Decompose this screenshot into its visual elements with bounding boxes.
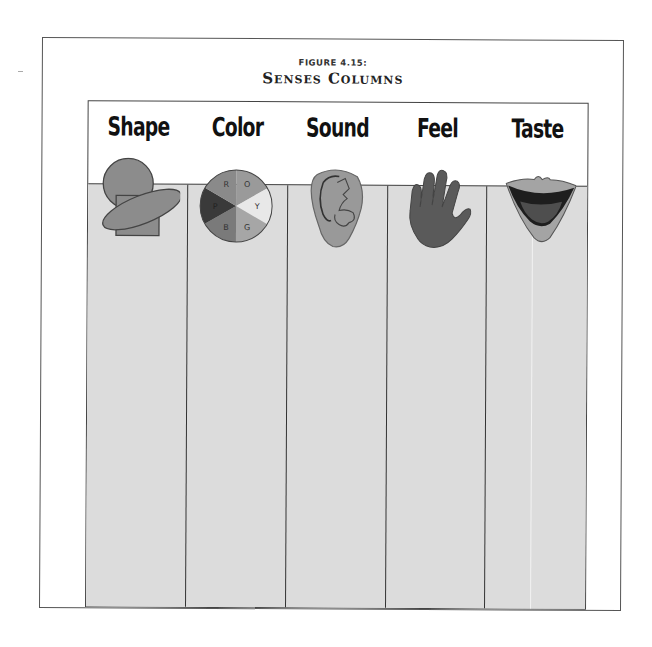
svg-text:G: G xyxy=(244,223,250,232)
column-header-sound: Sound xyxy=(301,112,373,142)
svg-text:Y: Y xyxy=(254,202,260,211)
column-taste xyxy=(484,186,587,609)
svg-text:P: P xyxy=(213,202,218,211)
svg-text:O: O xyxy=(244,180,250,189)
figure-frame: FIGURE 4.15: Senses Columns Shape Color … xyxy=(39,37,624,611)
senses-table: Shape Color Sound Feel Taste R O Y G B P xyxy=(85,100,589,610)
column-header-shape: Shape xyxy=(102,111,174,141)
svg-text:B: B xyxy=(223,223,229,232)
figure-number: FIGURE 4.15: xyxy=(43,56,623,69)
column-header-taste: Taste xyxy=(501,113,573,143)
color-wheel-icon: R O Y G B P xyxy=(198,168,274,244)
figure-title: Senses Columns xyxy=(43,68,623,89)
stray-mark xyxy=(18,71,23,72)
shapes-icon xyxy=(100,157,180,239)
column-color xyxy=(185,185,288,608)
svg-text:R: R xyxy=(223,180,229,189)
column-header-feel: Feel xyxy=(401,113,473,143)
column-header-color: Color xyxy=(201,112,273,142)
mouth-icon xyxy=(504,173,576,245)
ear-icon xyxy=(307,168,367,250)
hand-icon xyxy=(406,169,472,251)
column-shape xyxy=(86,184,188,607)
